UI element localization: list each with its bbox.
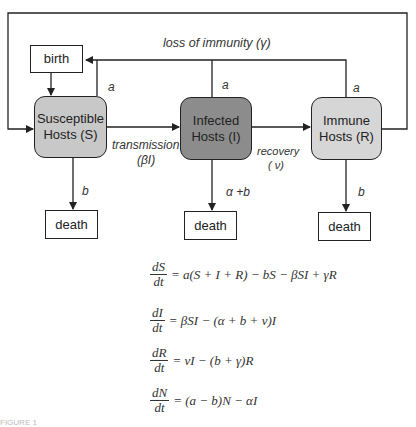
- eq3-numerator: dR: [150, 346, 168, 361]
- transmission-rate-label: (βI): [137, 153, 155, 167]
- death-s-label: death: [55, 217, 88, 233]
- immune-label-line2: Hosts (R): [319, 129, 374, 144]
- birth-node: birth: [30, 45, 83, 73]
- birth-rate-i-label: a: [222, 78, 229, 92]
- figure-caption: FIGURE 1: [0, 418, 37, 427]
- eq1-numerator: dS: [150, 260, 167, 275]
- infected-label-line2: Hosts (I): [191, 129, 240, 144]
- death-rate-r-label: b: [358, 185, 365, 199]
- eq3-denominator: dt: [152, 361, 166, 375]
- death-rate-s-label: b: [82, 184, 89, 198]
- birth-rate-r-label: a: [353, 81, 360, 95]
- equation-dn-dt: dNdt = (a − b)N − αI: [150, 386, 257, 415]
- eq3-rhs: = νI − (b + γ)R: [172, 353, 253, 369]
- infected-label-line1: Infected: [193, 113, 239, 128]
- susceptible-label-line2: Hosts (S): [43, 127, 97, 142]
- eq1-denominator: dt: [151, 275, 165, 289]
- recovery-label: recovery: [257, 145, 299, 157]
- susceptible-label-line1: Susceptible: [37, 111, 104, 126]
- birth-label: birth: [44, 51, 69, 67]
- eq1-rhs: = a(S + I + R) − bS − βSI + γR: [171, 267, 337, 283]
- death-node-s: death: [45, 210, 98, 239]
- recovery-rate-label: ( ν): [268, 159, 284, 171]
- death-node-i: death: [184, 211, 237, 240]
- immune-hosts-node: ImmuneHosts (R): [311, 97, 382, 160]
- birth-rate-s-label: a: [108, 80, 115, 94]
- equation-ds-dt: dSdt = a(S + I + R) − bS − βSI + γR: [150, 260, 337, 289]
- death-node-r: death: [318, 212, 371, 241]
- eq2-denominator: dt: [150, 321, 164, 335]
- eq4-rhs: = (a − b)N − αI: [173, 393, 257, 409]
- eq4-numerator: dN: [150, 386, 169, 401]
- eq4-denominator: dt: [153, 401, 167, 415]
- infected-hosts-node: InfectedHosts (I): [180, 97, 252, 160]
- loss-of-immunity-label: loss of immunity (γ): [163, 36, 271, 50]
- immune-label-line1: Immune: [323, 113, 370, 128]
- equation-di-dt: dIdt = βSI − (α + b + ν)I: [150, 306, 276, 335]
- death-rate-i-label: α +b: [226, 185, 250, 199]
- susceptible-hosts-node: SusceptibleHosts (S): [34, 96, 107, 158]
- death-r-label: death: [328, 219, 361, 235]
- eq2-rhs: = βSI − (α + b + ν)I: [169, 313, 276, 329]
- equation-dr-dt: dRdt = νI − (b + γ)R: [150, 346, 253, 375]
- transmission-label: transmission: [112, 138, 179, 152]
- death-i-label: death: [194, 218, 227, 234]
- eq2-numerator: dI: [150, 306, 165, 321]
